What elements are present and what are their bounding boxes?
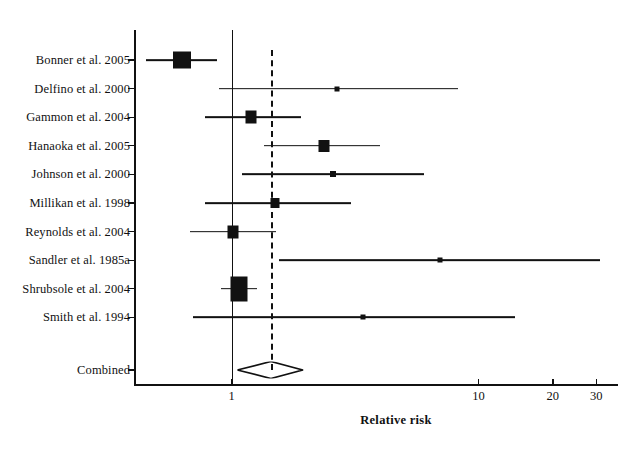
forest-plot: Bonner et al. 2005Delfino et al. 2000Gam… bbox=[0, 0, 638, 450]
study-label: Bonner et al. 2005 bbox=[36, 53, 130, 68]
effect-size-marker bbox=[246, 111, 257, 124]
y-axis-tick bbox=[128, 117, 135, 118]
pooled-effect-diamond bbox=[238, 362, 303, 379]
effect-size-marker bbox=[230, 276, 247, 301]
y-axis-tick bbox=[128, 231, 135, 232]
effect-size-marker bbox=[318, 140, 329, 152]
y-axis-tick bbox=[128, 145, 135, 146]
study-label: Gammon et al. 2004 bbox=[26, 110, 130, 125]
y-axis-tick bbox=[128, 59, 135, 60]
y-axis-tick bbox=[128, 202, 135, 203]
x-axis-tick-label: 1 bbox=[228, 389, 234, 404]
effect-size-marker bbox=[227, 225, 238, 238]
study-label: Hanaoka et al. 2005 bbox=[28, 138, 130, 153]
study-label-column: Bonner et al. 2005Delfino et al. 2000Gam… bbox=[0, 0, 130, 450]
study-label: Smith et al. 1994 bbox=[43, 310, 130, 325]
effect-size-marker bbox=[330, 171, 336, 177]
study-label: Reynolds et al. 2004 bbox=[25, 224, 130, 239]
study-label: Delfino et al. 2000 bbox=[34, 81, 130, 96]
y-axis-tick bbox=[128, 369, 135, 370]
y-axis-tick bbox=[128, 174, 135, 175]
effect-size-marker bbox=[335, 86, 340, 91]
x-axis-tick bbox=[596, 379, 597, 386]
x-axis-tick-label: 10 bbox=[472, 389, 485, 404]
x-axis-tick bbox=[478, 379, 479, 386]
x-axis-tick-label: 20 bbox=[547, 389, 560, 404]
y-axis-tick bbox=[128, 260, 135, 261]
effect-size-marker bbox=[270, 198, 279, 208]
y-axis-tick bbox=[128, 288, 135, 289]
study-label: Millikan et al. 1998 bbox=[29, 196, 130, 211]
x-axis-tick-label: 30 bbox=[590, 389, 603, 404]
y-axis-spine bbox=[134, 30, 136, 385]
reference-line-null bbox=[232, 30, 233, 385]
effect-size-marker bbox=[360, 315, 365, 320]
combined-label: Combined bbox=[77, 363, 130, 378]
x-axis-spine bbox=[134, 384, 618, 386]
x-axis-tick bbox=[552, 379, 553, 386]
study-label: Shrubsole et al. 2004 bbox=[22, 281, 130, 296]
x-axis-title: Relative risk bbox=[360, 413, 432, 428]
effect-size-marker bbox=[438, 258, 443, 263]
y-axis-tick bbox=[128, 317, 135, 318]
y-axis-tick bbox=[128, 88, 135, 89]
confidence-interval-line bbox=[193, 317, 514, 319]
study-label: Johnson et al. 2000 bbox=[32, 167, 130, 182]
effect-size-marker bbox=[173, 52, 191, 69]
study-label: Sandler et al. 1985a bbox=[29, 253, 130, 268]
pooled-estimate-dashed-line bbox=[271, 50, 273, 370]
x-axis-tick bbox=[231, 379, 232, 386]
